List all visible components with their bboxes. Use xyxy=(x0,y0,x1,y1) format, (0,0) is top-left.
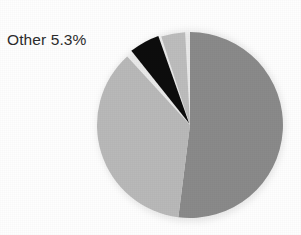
pie-chart-figure: Other 5.3% xyxy=(0,0,301,235)
other-slice-label: Other 5.3% xyxy=(7,31,86,49)
pie-slice-segment-1[interactable] xyxy=(178,32,283,218)
